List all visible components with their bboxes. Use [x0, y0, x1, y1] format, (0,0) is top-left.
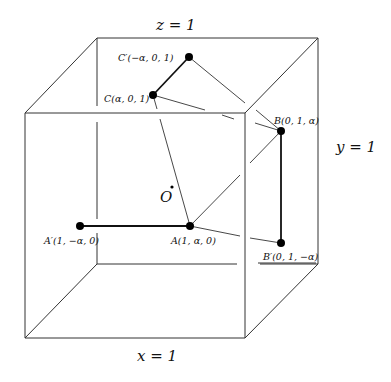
label-c-prime: C′(−α, 0, 1): [118, 52, 174, 63]
label-a: A(1, α, 0): [170, 235, 216, 246]
label-c: C(α, 0, 1): [104, 93, 150, 104]
plane-label-y: y = 1: [335, 138, 376, 156]
point-b: [277, 127, 285, 135]
origin-label: O: [160, 188, 172, 206]
cube-diagram: z = 1 y = 1 x = 1 O C′(−α, 0, 1) C(α, 0,…: [0, 0, 391, 382]
plane-label-x: x = 1: [137, 347, 177, 365]
point-b-prime: [277, 239, 285, 247]
label-a-prime: A′(1, −α, 0): [43, 235, 99, 246]
point-c: [149, 91, 157, 99]
thin-segments: [153, 57, 281, 243]
point-a: [186, 222, 194, 230]
label-b: B(0, 1, α): [273, 115, 319, 126]
point-c-prime: [185, 53, 193, 61]
points: [76, 53, 285, 247]
label-b-prime: B′(0, 1, −α): [262, 251, 318, 262]
thick-segments: [80, 57, 281, 243]
point-a-prime: [76, 222, 84, 230]
plane-label-z: z = 1: [155, 16, 196, 34]
